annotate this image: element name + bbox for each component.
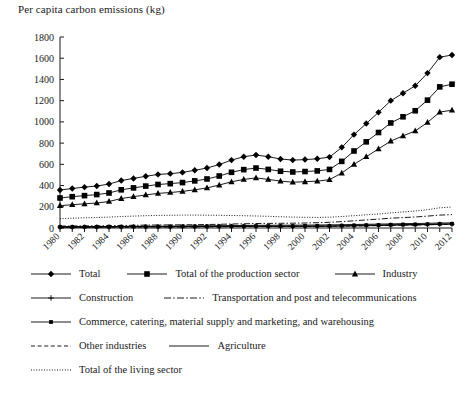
svg-text:1800: 1800	[34, 32, 54, 43]
legend-label: Total	[79, 269, 100, 280]
svg-text:1400: 1400	[34, 74, 54, 85]
line-diamond-icon	[30, 268, 72, 280]
svg-text:2002: 2002	[310, 231, 331, 252]
line-dotted-icon	[30, 364, 72, 376]
svg-text:1982: 1982	[65, 231, 86, 252]
line-dashed-icon	[30, 340, 72, 352]
svg-text:1994: 1994	[212, 231, 233, 252]
legend: TotalTotal of the production sectorIndus…	[0, 262, 460, 382]
svg-text:200: 200	[39, 201, 54, 212]
svg-text:1200: 1200	[34, 95, 54, 106]
legend-entry[interactable]: Commerce, catering, material supply and …	[30, 316, 374, 328]
line-small-square-icon	[30, 316, 72, 328]
line-plus-icon	[30, 292, 72, 304]
svg-text:1000: 1000	[34, 116, 54, 127]
line-solid-icon	[168, 340, 210, 352]
svg-text:1990: 1990	[163, 231, 184, 252]
series-layer	[57, 52, 455, 230]
legend-entry[interactable]: Construction	[30, 292, 133, 304]
legend-entry[interactable]: Industry	[334, 268, 418, 280]
legend-row: ConstructionTransportation and post and …	[0, 286, 460, 310]
legend-label: Total of the production sector	[175, 269, 299, 280]
svg-text:1984: 1984	[90, 231, 111, 252]
x-axis: 1980198219841986198819901992199419961998…	[41, 228, 454, 252]
line-chart: 020040060080010001200140016001800 198019…	[0, 0, 460, 262]
legend-entry[interactable]: Total	[30, 268, 100, 280]
svg-text:2004: 2004	[335, 231, 356, 252]
legend-row: TotalTotal of the production sectorIndus…	[0, 262, 460, 286]
legend-row: Other industriesAgriculture	[0, 334, 460, 358]
svg-text:400: 400	[39, 180, 54, 191]
y-axis: 020040060080010001200140016001800	[34, 32, 64, 234]
line-square-icon	[126, 268, 168, 280]
svg-text:2008: 2008	[384, 231, 405, 252]
series-square	[57, 81, 455, 200]
line-triangle-icon	[334, 268, 376, 280]
legend-label: Agriculture	[217, 341, 265, 352]
legend-row: Commerce, catering, material supply and …	[0, 310, 460, 334]
svg-text:1996: 1996	[237, 231, 258, 252]
legend-entry[interactable]: Transportation and post and telecommunic…	[163, 292, 416, 304]
series-dotted	[60, 207, 452, 219]
legend-entry[interactable]: Total of the living sector	[30, 364, 182, 376]
legend-label: Total of the living sector	[79, 365, 182, 376]
legend-entry[interactable]: Agriculture	[168, 340, 265, 352]
svg-text:1998: 1998	[261, 231, 282, 252]
legend-label: Industry	[383, 269, 418, 280]
legend-label: Commerce, catering, material supply and …	[79, 317, 374, 328]
svg-text:1992: 1992	[188, 231, 209, 252]
svg-text:1988: 1988	[139, 231, 160, 252]
svg-text:1986: 1986	[114, 231, 135, 252]
legend-label: Other industries	[79, 341, 146, 352]
svg-text:1980: 1980	[41, 231, 62, 252]
svg-text:2012: 2012	[433, 231, 454, 252]
line-dashdot-icon	[163, 292, 205, 304]
svg-text:2000: 2000	[286, 231, 307, 252]
svg-text:1600: 1600	[34, 53, 54, 64]
svg-text:800: 800	[39, 138, 54, 149]
legend-row: Total of the living sector	[0, 358, 460, 382]
legend-label: Transportation and post and telecommunic…	[212, 293, 416, 304]
svg-text:600: 600	[39, 159, 54, 170]
svg-text:2010: 2010	[408, 231, 429, 252]
legend-entry[interactable]: Total of the production sector	[126, 268, 299, 280]
series-diamond	[57, 52, 455, 193]
legend-entry[interactable]: Other industries	[30, 340, 146, 352]
legend-label: Construction	[79, 293, 133, 304]
svg-text:2006: 2006	[359, 231, 380, 252]
